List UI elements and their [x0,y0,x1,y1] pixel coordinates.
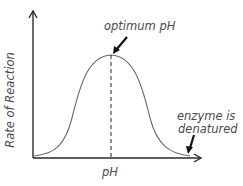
optimum-ph-label: optimum pH [104,20,175,33]
x-axis-label: pH [102,166,118,179]
rate-curve [34,55,190,156]
y-axis-label: Rate of Reaction [3,52,17,147]
x-axis [33,154,201,162]
denatured-label-line2: denatured [178,123,238,136]
y-axis [29,11,37,158]
denatured-arrow-icon [186,135,194,154]
optimum-arrow-icon [113,37,127,54]
